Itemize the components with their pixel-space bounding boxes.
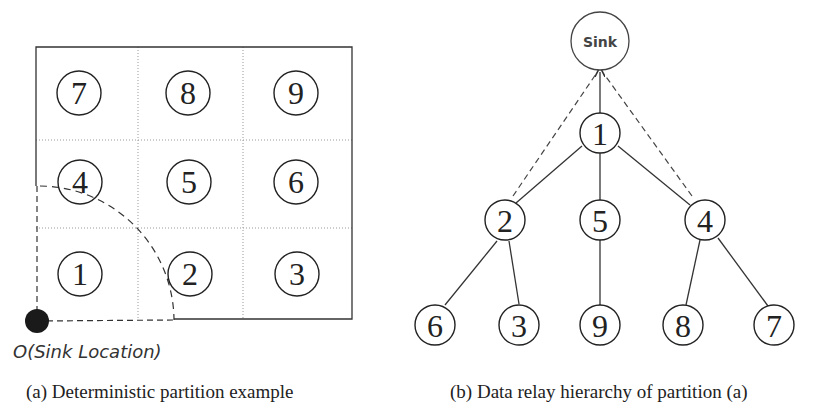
tree-node-8: 8	[663, 305, 703, 345]
tree-node-1: 1	[580, 113, 620, 153]
cell-5: 5	[167, 160, 211, 204]
svg-text:4: 4	[72, 164, 88, 200]
tree-node-2: 2	[485, 200, 525, 240]
relay-tree-edges	[445, 72, 768, 306]
edge-2-6	[445, 241, 497, 305]
svg-text:5: 5	[592, 203, 608, 239]
tree-node-4: 4	[685, 200, 725, 240]
svg-text:1: 1	[72, 256, 88, 292]
relay-tree-nodes: Sink 1 2 5 4 6 3 9 8 7	[415, 12, 794, 345]
svg-text:6: 6	[288, 164, 304, 200]
tree-node-3: 3	[499, 305, 539, 345]
svg-text:9: 9	[592, 308, 608, 344]
svg-text:6: 6	[427, 308, 443, 344]
edge-2-3	[509, 241, 519, 304]
caption-b: (b) Data relay hierarchy of partition (a…	[450, 381, 748, 403]
dashed-edge-bottom	[37, 320, 174, 321]
svg-text:2: 2	[182, 256, 198, 292]
cell-9: 9	[274, 71, 318, 115]
sink-node: Sink	[571, 12, 629, 70]
svg-text:9: 9	[288, 75, 304, 111]
cell-2: 2	[168, 252, 212, 296]
svg-text:Sink: Sink	[583, 34, 618, 50]
cell-1: 1	[58, 252, 102, 296]
tree-node-7: 7	[754, 305, 794, 345]
cell-4: 4	[58, 160, 102, 204]
tree-node-5: 5	[580, 200, 620, 240]
svg-text:8: 8	[180, 75, 196, 111]
svg-text:7: 7	[766, 308, 782, 344]
caption-a: (a) Deterministic partition example	[26, 381, 293, 403]
tree-node-6: 6	[415, 305, 455, 345]
svg-text:4: 4	[697, 203, 713, 239]
svg-text:5: 5	[181, 164, 197, 200]
tree-node-9: 9	[580, 305, 620, 345]
cell-6: 6	[274, 160, 318, 204]
sink-location-label: O(Sink Location)	[13, 341, 162, 362]
grid-cells: 7 8 9 4 5 6 1 2 3	[57, 71, 319, 296]
coverage-arc	[40, 186, 174, 320]
svg-text:3: 3	[289, 256, 305, 292]
svg-text:8: 8	[675, 308, 691, 344]
edge-4-8	[686, 240, 700, 305]
svg-text:2: 2	[497, 203, 513, 239]
svg-text:7: 7	[71, 75, 87, 111]
cell-7: 7	[57, 71, 101, 115]
cell-8: 8	[166, 71, 210, 115]
cell-3: 3	[275, 252, 319, 296]
edge-1-4	[618, 146, 690, 205]
svg-text:3: 3	[511, 308, 527, 344]
svg-text:1: 1	[592, 116, 608, 152]
sink-location-dot	[25, 309, 49, 333]
edge-1-2	[516, 146, 582, 203]
edge-4-7	[718, 238, 768, 306]
